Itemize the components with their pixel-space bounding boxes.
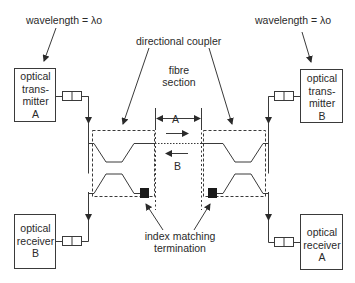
directional-coupler-left-pointer — [123, 48, 149, 124]
left-coupler-box — [93, 131, 155, 197]
index-matching-label-2: termination — [140, 242, 220, 254]
connector-rx-b — [56, 193, 89, 246]
wavelength-left-label: wavelength = λo — [26, 14, 102, 26]
rx-b-label: optical receiver B — [15, 222, 56, 260]
termination-right-pointer — [194, 204, 210, 230]
index-matching-label-1: index matching — [140, 230, 220, 242]
termination-left-pointer — [146, 204, 163, 230]
connector-tx-b — [269, 92, 301, 119]
left-coupler-upper-guide — [89, 144, 156, 163]
wavelength-right-label: wavelength = λo — [255, 14, 331, 26]
wavelength-right-pointer — [302, 32, 311, 62]
right-coupler-upper-guide — [201, 144, 269, 163]
right-index-matching-termination — [208, 188, 217, 198]
right-coupler-box — [204, 131, 266, 197]
wavelength-left-pointer — [44, 28, 56, 61]
rx-a-label: optical receiver A — [301, 226, 343, 264]
direction-b-label: B — [174, 160, 181, 172]
tx-a-label: optical trans- mitter A — [15, 70, 56, 120]
directional-coupler-right-pointer — [209, 48, 232, 124]
fibre-section-label-2: section — [160, 76, 198, 88]
right-coupler-lower-guide — [217, 174, 269, 194]
tx-b-label: optical trans- mitter B — [301, 72, 343, 122]
left-coupler-lower-guide — [89, 174, 141, 194]
connector-rx-a — [269, 193, 301, 247]
direction-a-label: A — [172, 113, 179, 125]
fibre-section-label-1: fibre — [160, 64, 198, 76]
left-index-matching-termination — [140, 188, 149, 198]
diagram-canvas: wavelength = λo wavelength = λo directio… — [0, 0, 355, 283]
directional-coupler-label: directional coupler — [136, 35, 221, 47]
connector-tx-a — [56, 92, 89, 119]
